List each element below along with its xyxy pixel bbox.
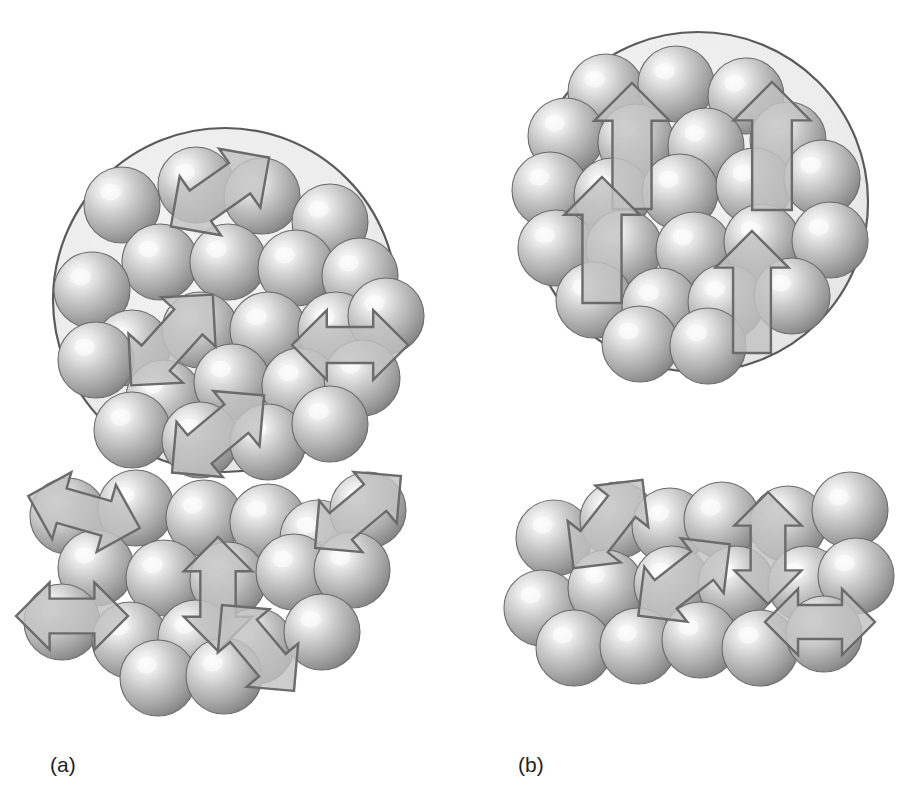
- panel-b-caption: (b): [518, 753, 544, 776]
- atom-sphere: [122, 224, 198, 300]
- magnetic-domain-figure: (a) (b): [0, 0, 904, 801]
- atom-sphere: [292, 386, 368, 462]
- figure-root: (a) (b): [0, 0, 904, 801]
- atom-sphere: [190, 224, 266, 300]
- panel-a-caption: (a): [50, 753, 76, 776]
- atom-sphere: [94, 392, 170, 468]
- atom-sphere: [602, 306, 678, 382]
- atom-sphere: [812, 472, 888, 548]
- atom-sphere: [120, 640, 196, 716]
- atom-sphere: [58, 322, 134, 398]
